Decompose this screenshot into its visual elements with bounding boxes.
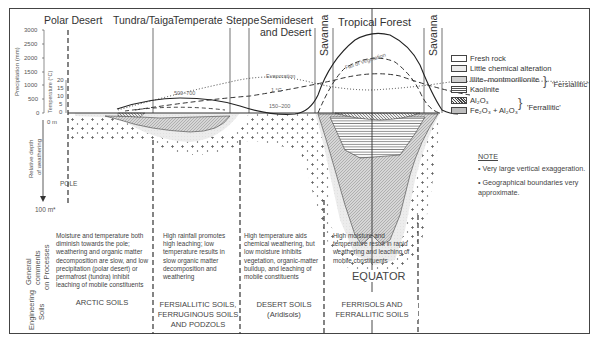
soil-desert: DESERT SOILS (Aridisols) — [246, 300, 322, 320]
note-item-1: • Very large vertical exaggeration. — [478, 164, 585, 174]
legend-illite: Illite–montmorillonite — [451, 75, 539, 84]
al2o3-swatch-icon — [451, 97, 467, 104]
equator-label: EQUATOR — [350, 270, 407, 282]
depth-label-line1: Relative depth — [28, 140, 34, 178]
zone-desert: and Desert — [260, 26, 311, 38]
soils-row-label-1: Engineering — [27, 290, 36, 330]
legend-fresh-rock: Fresh rock — [451, 54, 506, 63]
legend-kaolinite: Kaolinite — [451, 85, 499, 94]
precip-temperate-label: 500–700 — [174, 90, 195, 96]
comments-row-label-3: on Processes — [42, 245, 51, 290]
comment-tropical: High moisture and temperature result in … — [333, 232, 417, 265]
fersiallitic-group-label: 'Fersiallitic' — [552, 80, 589, 89]
depth-label-line2: of weathering — [36, 139, 42, 175]
zone-steppe: Steppe — [226, 14, 259, 26]
temp-tick-15: 15 — [57, 85, 64, 91]
temp-tick-0: 0 — [59, 109, 62, 115]
precip-tick-0: 0 — [36, 110, 39, 116]
comments-row-label-1: General — [24, 258, 33, 285]
depth-bottom-label: 100 m* — [35, 206, 56, 213]
precip-tick-1500: 1500 — [24, 69, 37, 75]
soil-temperate: FERSIALLITIC SOILS, FERRUGINOUS SOILS AN… — [156, 300, 240, 330]
zero-depth-label: 0 m — [47, 119, 57, 125]
temp-tick-10: 10 — [57, 93, 64, 99]
fall-of-vegetation-curve — [318, 58, 440, 113]
fresh-rock-swatch-icon — [451, 55, 467, 62]
comment-temperate: High rainfall promotes high leaching; lo… — [163, 232, 238, 281]
precip-tick-1000: 1000 — [24, 82, 37, 88]
zone-tundra: Tundra/Taiga — [113, 14, 174, 26]
temp-axis-label: Temperature (°C) — [47, 71, 53, 113]
precip-tick-2000: 2000 — [24, 55, 37, 61]
zone-tropical: Tropical Forest — [338, 16, 411, 28]
depth-arrow-icon — [40, 196, 46, 202]
ferrallitic-brace-icon: } — [518, 95, 522, 110]
evaporation-label: Evaporation — [266, 73, 295, 79]
precip-desert-label: 150–200 — [269, 103, 290, 109]
pole-label: POLE — [60, 180, 77, 187]
zone-savanna-right: Savanna — [427, 15, 439, 56]
one-degree-label: 1 °C — [271, 87, 282, 93]
zone-semidesert: Semidesert — [260, 14, 313, 26]
kaolinite-swatch-icon — [451, 86, 467, 93]
precip-tick-2500: 2500 — [24, 41, 37, 47]
ferrallitic-group-label: 'Ferrallitic' — [527, 103, 561, 112]
comments-row-label-2: comments — [33, 250, 42, 285]
illite-swatch-icon — [451, 76, 467, 83]
soil-tropical: FERRISOLS AND FERRALLITIC SOILS — [326, 300, 418, 320]
comment-arctic: Moisture and temperature both diminish t… — [56, 232, 152, 289]
legend-al2o3: Al₂O₃ — [451, 96, 489, 105]
note-item-2: • Geographical boundaries very approxima… — [478, 178, 583, 197]
legend-little-alteration: Little chemical alteration — [451, 64, 551, 73]
comment-desert: High temperature aids chemical weatherin… — [244, 232, 324, 281]
temp-tick-20: 20 — [57, 77, 64, 83]
zone-polar: Polar Desert — [44, 14, 102, 26]
precip-tick-3000: 3000 — [24, 27, 37, 33]
precip-axis-label: Precipitation (mm) — [14, 47, 20, 96]
zone-savanna-left: Savanna — [318, 15, 330, 56]
zone-temperate: Temperate — [173, 14, 223, 26]
soil-arctic: ARCTIC SOILS — [62, 298, 142, 308]
fersiallitic-brace-icon: } — [543, 73, 547, 88]
little-alteration-swatch-icon — [451, 65, 467, 72]
soils-row-label-2: Soils — [37, 304, 46, 320]
temperate-temperature-curve — [125, 107, 225, 111]
precip-tick-500: 500 — [28, 96, 38, 102]
temp-tick-5: 5 — [59, 101, 62, 107]
note-title: NOTE — [478, 152, 498, 162]
legend-fe2o3: Fe₂O₃ + Al₂O₃ — [451, 106, 518, 115]
fe2o3-swatch-icon — [451, 107, 467, 114]
